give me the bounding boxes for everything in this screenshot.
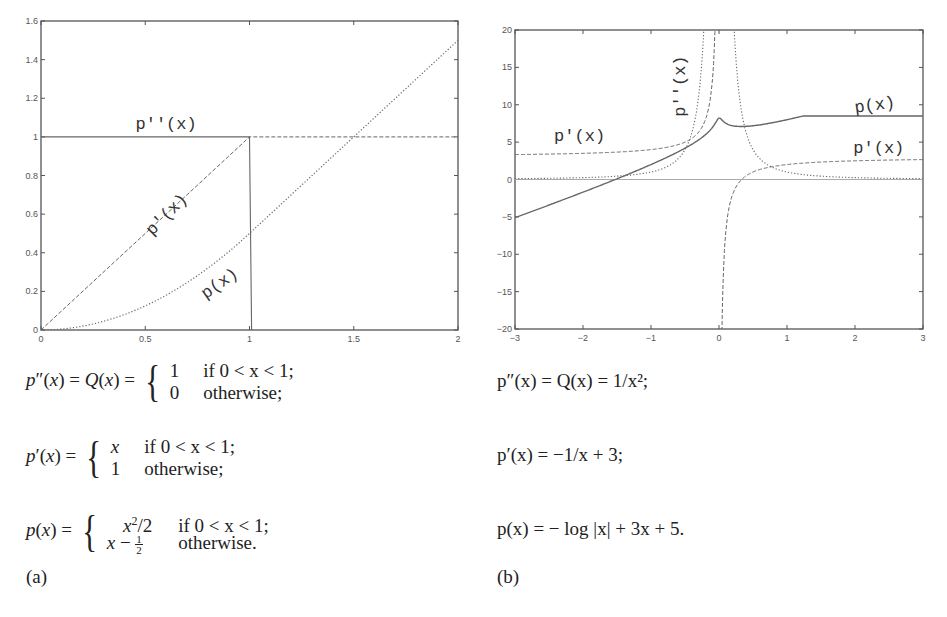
- y-tick-label: −10: [497, 249, 512, 259]
- y-tick-label: 0.2: [25, 286, 38, 296]
- case-condition: if 0 < x < 1;: [144, 436, 235, 457]
- x-tick-label: 2: [455, 334, 460, 344]
- x-tick-label: 0.5: [139, 334, 152, 344]
- panel-a: 00.511.5200.20.40.60.811.21.41.6p''(x)p'…: [0, 0, 470, 617]
- x-tick-label: 0: [716, 333, 721, 343]
- x-tick-label: −1: [646, 333, 656, 343]
- plot-b: −3−2−10123−20−15−10−505101520p'(x)p''(x)…: [480, 0, 947, 345]
- y-tick-label: 15: [502, 62, 512, 72]
- y-tick-label: 0.8: [25, 171, 38, 181]
- case-condition: otherwise;: [203, 382, 282, 403]
- y-tick-label: 10: [502, 100, 512, 110]
- case-condition: otherwise;: [144, 458, 223, 479]
- y-tick-label: 20: [502, 25, 512, 35]
- y-tick-label: 5: [507, 137, 512, 147]
- y-tick-label: −5: [502, 212, 512, 222]
- y-tick-label: 1.2: [25, 93, 38, 103]
- x-tick-label: −3: [510, 333, 520, 343]
- y-tick-label: 1.6: [25, 16, 38, 26]
- equation-b-first-derivative: p′(x) = −1/x + 3;: [497, 444, 623, 466]
- curve-label: p'(x): [554, 127, 605, 146]
- case-condition: otherwise.: [178, 532, 257, 553]
- x-tick-label: 1.5: [347, 334, 360, 344]
- x-tick-label: −2: [578, 333, 588, 343]
- caption-a: (a): [26, 566, 47, 588]
- case-value: x: [111, 436, 119, 457]
- panel-b: −3−2−10123−20−15−10−505101520p'(x)p''(x)…: [480, 0, 947, 617]
- curve-label: p'(x): [142, 190, 192, 240]
- x-tick-label: 1: [247, 334, 252, 344]
- y-tick-label: 0.6: [25, 209, 38, 219]
- x-tick-label: 0: [38, 334, 43, 344]
- equation-b-second-derivative: p″(x) = Q(x) = 1/x²;: [497, 370, 648, 392]
- caption-b: (b): [497, 566, 519, 588]
- case-condition: if 0 < x < 1;: [203, 360, 294, 381]
- y-tick-label: 1: [33, 132, 38, 142]
- y-tick-label: 1.4: [25, 55, 38, 65]
- equation-a-second-derivative: p″(x) = Q(x) = { 1 if 0 < x < 1; 0 other…: [26, 360, 294, 404]
- case-value: 1: [170, 360, 194, 382]
- equation-a-function: p(x) = { x2/2 if 0 < x < 1; x − 12 other…: [26, 510, 269, 554]
- curve-label: p'(x): [853, 139, 904, 158]
- case-value: 1: [111, 458, 135, 480]
- x-tick-label: 1: [784, 333, 789, 343]
- curve: [722, 160, 923, 344]
- y-tick-label: −20: [497, 324, 512, 334]
- x-tick-label: 2: [852, 333, 857, 343]
- x-tick-label: 3: [920, 333, 925, 343]
- curve-label: p''(x): [135, 115, 196, 134]
- case-value: 0: [170, 382, 194, 404]
- y-tick-label: 0: [33, 325, 38, 335]
- equation-a-first-derivative: p′(x) = { x if 0 < x < 1; 1 otherwise;: [26, 436, 235, 480]
- curve-label: p''(x): [671, 55, 690, 116]
- plot-a: 00.511.5200.20.40.60.811.21.41.6p''(x)p'…: [0, 0, 470, 345]
- y-tick-label: 0.4: [25, 248, 38, 258]
- equation-b-function: p(x) = − log |x| + 3x + 5.: [497, 518, 684, 540]
- y-tick-label: 0: [507, 175, 512, 185]
- y-tick-label: −15: [497, 287, 512, 297]
- curve-label: p(x): [853, 93, 896, 117]
